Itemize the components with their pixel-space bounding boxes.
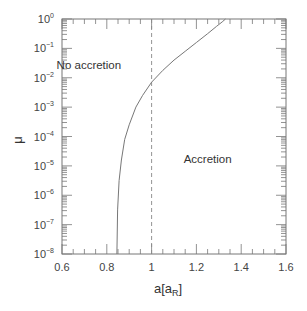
no-accretion-label: No accretion (57, 59, 122, 71)
y-tick-label: 10−4 (34, 130, 54, 143)
y-tick-label: 10−3 (34, 100, 54, 113)
y-tick-label: 10−6 (34, 188, 54, 201)
x-tick-label: 1.2 (189, 261, 204, 273)
accretion-label: Accretion (184, 153, 232, 165)
y-tick-labels: 10010−110−210−310−410−510−610−710−8 (34, 12, 54, 260)
x-tick-label: 1 (149, 261, 155, 273)
x-tick-label: 0.6 (54, 261, 69, 273)
plot-frame (62, 19, 286, 254)
chart: 0.60.811.21.41.6 10010−110−210−310−410−5… (0, 0, 307, 311)
y-tick-label: 10−1 (34, 41, 54, 54)
x-tick-labels: 0.60.811.21.41.6 (54, 261, 293, 273)
y-tick-label: 10−8 (34, 247, 54, 260)
y-tick-label: 100 (38, 12, 54, 25)
y-tick-label: 10−5 (34, 159, 54, 172)
boundary-curve (117, 19, 226, 254)
y-tick-label: 10−2 (34, 71, 54, 84)
x-tick-label: 0.8 (99, 261, 114, 273)
y-tick-label: 10−7 (34, 218, 54, 231)
x-tick-label: 1.6 (278, 261, 293, 273)
x-tick-label: 1.4 (234, 261, 249, 273)
x-axis-label: a[aR] (154, 281, 182, 298)
y-axis-label: μ (10, 136, 25, 144)
tick-marks (62, 19, 286, 254)
